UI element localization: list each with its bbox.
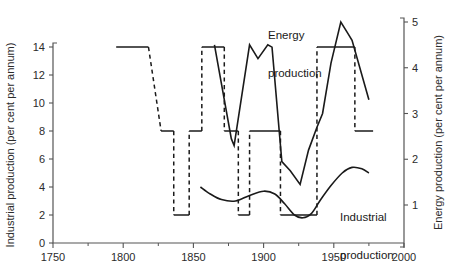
y2-axis-tick-label: 1 bbox=[412, 199, 418, 211]
y-axis-tick-label: 8 bbox=[39, 125, 45, 137]
x-axis-tick-label: 1900 bbox=[251, 251, 275, 263]
x-axis-tick-label: 1750 bbox=[41, 251, 65, 263]
energy-annotation-line2: production bbox=[268, 67, 322, 80]
right-axis-spine bbox=[400, 18, 404, 247]
industrial-annotation-line2: production bbox=[340, 249, 394, 262]
y-axis-tick-label: 14 bbox=[33, 41, 45, 53]
y-axis-tick-label: 12 bbox=[33, 69, 45, 81]
y2-axis-title: Energy production (per cent per annum) bbox=[432, 35, 444, 230]
chart-figure: 0246810121412345175018001850190019502000… bbox=[0, 0, 452, 280]
industrial-production-annotation: Industrial production bbox=[340, 186, 394, 280]
y-axis-tick-label: 6 bbox=[39, 153, 45, 165]
y-axis-tick-label: 4 bbox=[39, 181, 45, 193]
y-axis-tick-label: 10 bbox=[33, 97, 45, 109]
y2-axis-tick-label: 5 bbox=[412, 16, 418, 28]
energy-production-annotation: Energy production bbox=[268, 4, 322, 104]
x-axis-tick-label: 1800 bbox=[111, 251, 135, 263]
y2-axis-tick-label: 2 bbox=[412, 153, 418, 165]
y-axis-tick-label: 2 bbox=[39, 209, 45, 221]
y2-axis-tick-label: 4 bbox=[412, 62, 418, 74]
x-axis-tick-label: 1850 bbox=[181, 251, 205, 263]
data-series-group bbox=[116, 22, 373, 218]
y-axis-title: Industrial production (per cent per annu… bbox=[4, 43, 16, 248]
step-riser bbox=[148, 47, 161, 131]
industrial-annotation-line1: Industrial bbox=[340, 211, 394, 224]
y2-axis-tick-label: 3 bbox=[412, 108, 418, 120]
x-axis-tick-label: 2000 bbox=[392, 251, 416, 263]
y-axis-tick-label: 0 bbox=[39, 237, 45, 249]
energy-annotation-line1: Energy bbox=[268, 29, 322, 42]
